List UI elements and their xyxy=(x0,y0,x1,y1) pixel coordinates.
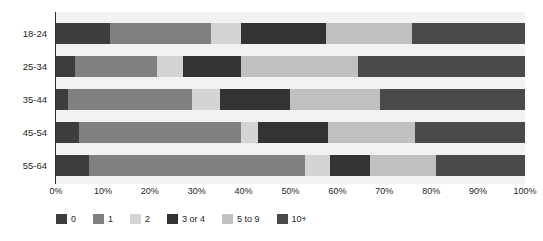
bar-segment-1 xyxy=(89,155,305,176)
bar-segment-2 xyxy=(157,56,183,77)
bar-segment-3-or-4 xyxy=(220,89,290,110)
bar-segment-1 xyxy=(79,122,241,143)
bar-segment-10+ xyxy=(380,89,525,110)
x-tick-label-60: 60% xyxy=(328,186,346,196)
legend-item-2[interactable]: 2 xyxy=(130,214,150,224)
stacked-bar xyxy=(56,155,525,176)
category-label-35-44: 35-44 xyxy=(23,89,47,110)
category-label-45-54: 45-54 xyxy=(23,122,47,143)
bar-segment-3-or-4 xyxy=(241,23,325,44)
x-tick-label-0: 0% xyxy=(49,186,62,196)
bar-row-35-44 xyxy=(56,89,525,110)
bar-segment-5-to-9 xyxy=(370,155,436,176)
bar-row-55-64 xyxy=(56,155,525,176)
bar-segment-0 xyxy=(56,89,68,110)
stacked-bar xyxy=(56,56,525,77)
x-tick-label-30: 30% xyxy=(188,186,206,196)
legend-item-1[interactable]: 1 xyxy=(93,214,113,224)
legend-item-0[interactable]: 0 xyxy=(56,214,76,224)
x-tick-label-20: 20% xyxy=(141,186,159,196)
x-tick-label-50: 50% xyxy=(281,186,299,196)
bar-segment-3-or-4 xyxy=(258,122,328,143)
bar-segment-1 xyxy=(68,89,192,110)
x-tick-label-80: 80% xyxy=(422,186,440,196)
bar-segment-3-or-4 xyxy=(183,56,242,77)
stacked-bar xyxy=(56,89,525,110)
bar-segment-2 xyxy=(192,89,220,110)
legend-swatch-icon xyxy=(277,214,288,224)
x-tick-label-40: 40% xyxy=(235,186,253,196)
x-axis-ticks: 0%10%20%30%40%50%60%70%80%90%100% xyxy=(56,186,525,202)
bar-segment-0 xyxy=(56,23,110,44)
legend-label: 0 xyxy=(71,214,76,224)
x-tick-label-10: 10% xyxy=(94,186,112,196)
legend-item-10+[interactable]: 10+ xyxy=(277,214,307,224)
legend-swatch-icon xyxy=(222,214,233,224)
legend-swatch-icon xyxy=(130,214,141,224)
bar-segment-5-to-9 xyxy=(328,122,415,143)
category-label-25-34: 25-34 xyxy=(23,56,47,77)
bar-row-25-34 xyxy=(56,56,525,77)
bar-segment-1 xyxy=(110,23,211,44)
stacked-bar xyxy=(56,122,525,143)
legend-swatch-icon xyxy=(167,214,178,224)
stacked-bar xyxy=(56,23,525,44)
bar-segment-5-to-9 xyxy=(290,89,379,110)
x-tick-label-100: 100% xyxy=(513,186,536,196)
legend-label: 1 xyxy=(108,214,113,224)
bar-segment-1 xyxy=(75,56,157,77)
bar-segment-10+ xyxy=(358,56,524,77)
legend-label: 5 to 9 xyxy=(237,214,260,224)
bar-segment-2 xyxy=(241,122,257,143)
chart-legend: 0123 or 45 to 910+ xyxy=(56,212,317,226)
bar-segment-0 xyxy=(56,122,79,143)
bar-segment-3-or-4 xyxy=(330,155,370,176)
legend-item-3-or-4[interactable]: 3 or 4 xyxy=(167,214,205,224)
category-label-18-24: 18-24 xyxy=(23,23,47,44)
x-tick-label-70: 70% xyxy=(375,186,393,196)
bar-segment-10+ xyxy=(412,23,525,44)
bar-row-18-24 xyxy=(56,23,525,44)
legend-swatch-icon xyxy=(56,214,67,224)
bar-rows xyxy=(56,12,525,184)
bar-segment-2 xyxy=(305,155,331,176)
bar-segment-5-to-9 xyxy=(326,23,413,44)
category-axis-labels: 18-2425-3435-4445-5455-64 xyxy=(0,12,52,184)
bar-segment-0 xyxy=(56,155,89,176)
legend-label: 10+ xyxy=(292,214,307,224)
x-tick-label-90: 90% xyxy=(469,186,487,196)
category-label-55-64: 55-64 xyxy=(23,155,47,176)
stacked-bar-chart: 18-2425-3435-4445-5455-64 0%10%20%30%40%… xyxy=(0,0,543,241)
legend-label: 2 xyxy=(145,214,150,224)
legend-label: 3 or 4 xyxy=(182,214,205,224)
bar-segment-10+ xyxy=(415,122,525,143)
legend-item-5-to-9[interactable]: 5 to 9 xyxy=(222,214,260,224)
bar-segment-0 xyxy=(56,56,75,77)
bar-row-45-54 xyxy=(56,122,525,143)
bar-segment-10+ xyxy=(436,155,525,176)
bar-segment-2 xyxy=(211,23,241,44)
legend-swatch-icon xyxy=(93,214,104,224)
bar-segment-5-to-9 xyxy=(241,56,358,77)
